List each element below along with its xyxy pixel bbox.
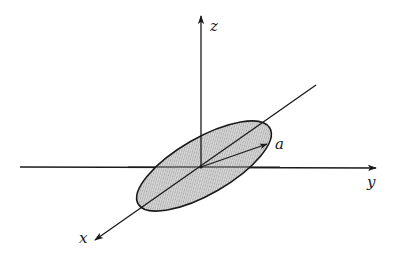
z-axis-label: z (209, 17, 218, 35)
vector-a-label: a (275, 135, 284, 153)
origin-point (199, 165, 202, 168)
y-axis-label: y (366, 173, 376, 191)
x-axis-label: x (79, 229, 88, 247)
diagram-canvas: z y x a (0, 0, 401, 253)
x-axis (95, 85, 316, 240)
coordinate-diagram: z y x a (0, 0, 401, 253)
